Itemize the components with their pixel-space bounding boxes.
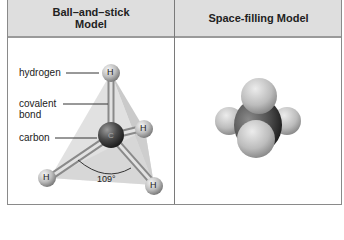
bond-angle-label: 109°: [97, 174, 116, 185]
hydrogen-symbol-bottom-right: H: [150, 180, 157, 191]
hydrogen-symbol-top: H: [107, 67, 114, 78]
label-hydrogen: hydrogen: [19, 67, 61, 78]
hydrogen-symbol-left: H: [43, 172, 50, 183]
label-carbon: carbon: [19, 132, 50, 143]
hydrogen-symbol-right: H: [140, 123, 147, 134]
label-covalent-bond-line2: bond: [19, 109, 41, 120]
label-covalent-bond-line1: covalent: [19, 98, 56, 109]
carbon-symbol: C: [108, 130, 114, 141]
space-filling-molecule: [215, 78, 301, 158]
